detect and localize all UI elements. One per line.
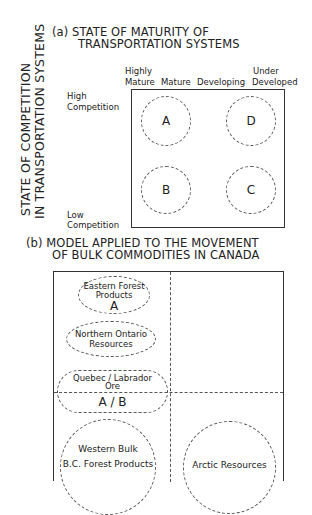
panel-a-title-line2: TRANSPORTATION SYSTEMS	[78, 38, 240, 50]
panel-b-title-line2: OF BULK COMMODITIES IN CANADA	[52, 249, 260, 261]
y-label-low-line1: Low	[67, 210, 84, 220]
quadrant-a-label: A	[162, 114, 170, 128]
northern-ontario-line2: Resources	[67, 340, 155, 349]
arctic-resources-line1: Arctic Resources	[184, 461, 275, 470]
x-label-mature: Mature	[161, 77, 191, 87]
quadrant-c-circle: C	[226, 166, 276, 214]
x-label-highly-line2: Mature	[125, 77, 155, 87]
arctic-resources-circle: Arctic Resources	[183, 421, 276, 514]
y-axis-label-line1: STATE OF COMPETITION	[19, 63, 32, 216]
eastern-forest-quadrant: A	[79, 300, 149, 312]
panel-b-frame: Eastern Forest Products A Northern Ontar…	[53, 271, 284, 481]
quadrant-a-circle: A	[141, 96, 191, 146]
y-label-high-line1: High	[67, 91, 87, 101]
x-label-developing: Developing	[197, 77, 245, 87]
vertical-divider	[170, 272, 171, 482]
quadrant-d-label: D	[246, 114, 255, 128]
panel-a-frame: A D B C	[131, 89, 285, 228]
quadrant-d-circle: D	[226, 96, 276, 146]
quebec-labrador-ore-capsule: Quebec / Labrador Ore A / B	[57, 370, 168, 413]
western-bulk-line2: B.C. Forest Products	[61, 460, 155, 469]
quebec-labrador-line2: Ore	[58, 382, 167, 391]
y-label-high-line2: Competition	[67, 102, 119, 112]
x-label-highly-line1: Highly	[125, 66, 152, 76]
quadrant-c-label: C	[247, 183, 255, 197]
northern-ontario-resources-ellipse: Northern Ontario Resources	[66, 321, 156, 357]
western-bulk-circle: Western Bulk B.C. Forest Products	[60, 419, 156, 515]
x-label-under-line2: Developed	[252, 77, 298, 87]
y-label-low-line2: Competition	[67, 220, 119, 230]
eastern-forest-products-ellipse: Eastern Forest Products A	[78, 276, 150, 314]
quebec-labrador-quadrant: A / B	[58, 396, 167, 408]
y-axis-label-line2: IN TRANSPORTATION SYSTEMS	[33, 24, 46, 219]
x-label-under-line1: Under	[253, 66, 279, 76]
northern-ontario-line1: Northern Ontario	[67, 330, 155, 339]
western-bulk-line1: Western Bulk	[61, 445, 155, 454]
quadrant-b-circle: B	[141, 166, 191, 214]
quadrant-b-label: B	[162, 183, 170, 197]
